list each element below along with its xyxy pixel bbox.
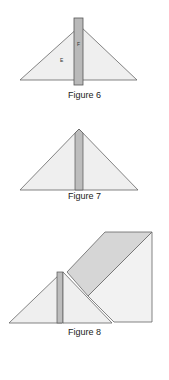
figure-7-caption: Figure 7: [0, 191, 169, 201]
label-f: F: [77, 41, 80, 47]
figure-8-diagram: [9, 232, 152, 323]
figure-7-diagram: [20, 129, 138, 190]
figures-canvas: [0, 0, 169, 380]
figure-8-caption: Figure 8: [0, 327, 169, 337]
label-e: E: [60, 57, 63, 63]
figure-6-diagram: [20, 18, 137, 85]
figure-6-caption: Figure 6: [0, 90, 169, 100]
